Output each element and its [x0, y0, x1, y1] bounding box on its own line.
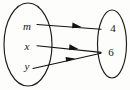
domain-element-y: y	[25, 61, 30, 72]
range-element-4: 4	[110, 23, 116, 34]
arrow-x-to-6-head	[69, 44, 79, 50]
arrow-x-to-6-line	[37, 46, 101, 53]
arrow-x-to-6	[37, 44, 101, 52]
arrow-y-to-6	[33, 53, 101, 68]
mapping-diagram: m x y 4 6	[0, 0, 130, 90]
domain-element-x: x	[25, 41, 30, 52]
arrow-m-to-4	[37, 23, 101, 30]
arrow-m-to-4-line	[37, 25, 101, 30]
domain-element-m: m	[23, 21, 31, 32]
range-element-6: 6	[108, 47, 114, 58]
range-set-ellipse	[98, 10, 127, 78]
